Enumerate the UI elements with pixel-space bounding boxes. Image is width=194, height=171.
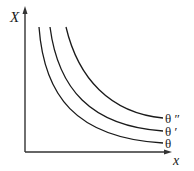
curve-theta-double-prime xyxy=(66,27,163,118)
y-axis-arrow-icon xyxy=(23,6,28,14)
y-axis-label: X xyxy=(9,9,20,25)
x-axis-label: x xyxy=(172,153,180,168)
curve-label-theta: θ xyxy=(165,136,171,151)
diagram-canvas: X x θ ″ θ ′ θ xyxy=(0,0,194,171)
curve-theta xyxy=(39,27,163,143)
